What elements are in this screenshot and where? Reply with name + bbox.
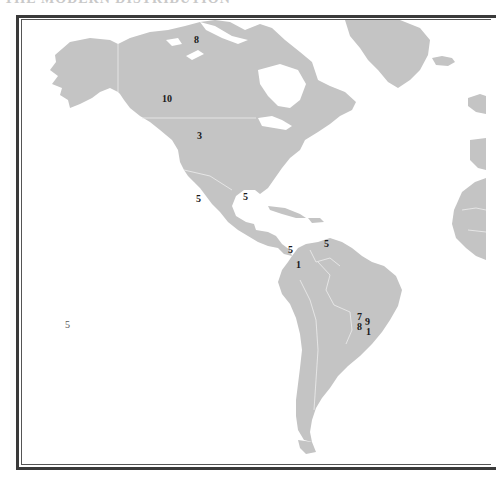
tierra-del-fuego-landmass (298, 440, 316, 454)
hispaniola-landmass (308, 218, 324, 223)
europe-edge-landmass (470, 138, 486, 170)
map-label-gulf-of-mexico: 5 (243, 192, 248, 202)
cuba-landmass (268, 206, 306, 218)
title-text: THE MODERN DISTRIBUTION (4, 0, 231, 6)
americas-map (22, 20, 486, 465)
map-label-panama: 5 (288, 245, 293, 255)
map-label-usa-north: 3 (197, 131, 202, 141)
map-label-brazil-d: 1 (366, 327, 371, 337)
map-label-colombia: 1 (296, 260, 301, 270)
africa-edge-landmass (452, 178, 486, 260)
map-label-venezuela-coast: 5 (324, 239, 329, 249)
ireland-britain-landmass (468, 94, 486, 114)
greenland-landmass (345, 20, 430, 88)
map-label-canada-north: 8 (194, 35, 199, 45)
map-label-canada-west: 10 (162, 94, 172, 104)
iceland-landmass (432, 56, 455, 66)
map-label-brazil-c: 8 (357, 322, 362, 332)
alaska-landmass (50, 38, 118, 108)
page-title-partial: THE MODERN DISTRIBUTION (0, 0, 486, 6)
map-label-baja-california: 5 (196, 194, 201, 204)
map-label-pacific-island: 5 (65, 320, 70, 330)
